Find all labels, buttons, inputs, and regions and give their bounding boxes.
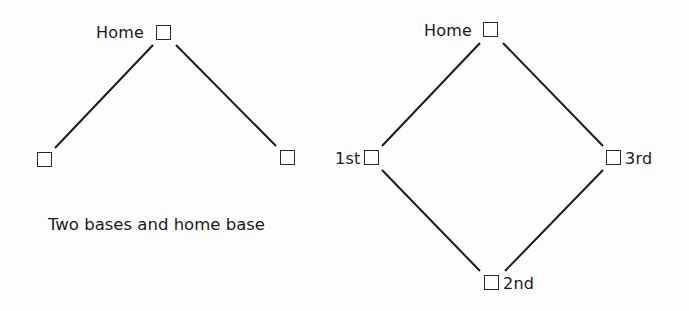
second-base-label: 2nd [503, 276, 534, 292]
line-home-to-first [382, 43, 480, 146]
home-label: Home [424, 23, 472, 39]
home-base-square-icon [156, 25, 171, 40]
line-third-to-second [505, 170, 603, 271]
third-base-label: 3rd [625, 151, 652, 167]
diagram-canvas: Home Two bases and home base Home 1st 3r… [0, 0, 689, 311]
home-label: Home [96, 25, 144, 41]
first-base-square-icon [364, 150, 379, 165]
third-base-square-icon [606, 150, 621, 165]
diagram-caption: Two bases and home base [48, 216, 265, 234]
line-home-to-left [55, 45, 153, 148]
second-base-square-icon [484, 275, 499, 290]
line-home-to-right [176, 45, 276, 146]
right-base-square-icon [280, 150, 295, 165]
home-base-square-icon [483, 22, 498, 37]
left-base-square-icon [37, 152, 52, 167]
line-home-to-third [503, 43, 603, 146]
line-first-to-second [382, 170, 480, 271]
first-base-label: 1st [335, 151, 360, 167]
